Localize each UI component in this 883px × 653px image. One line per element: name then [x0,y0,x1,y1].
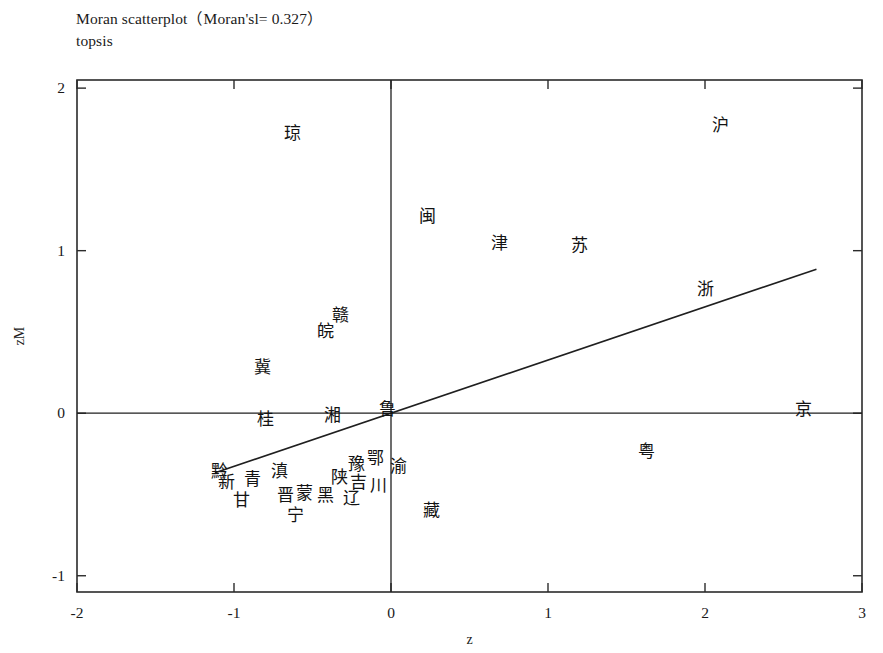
point-label: 川 [370,475,387,495]
point-label: 宁 [287,505,304,525]
y-tick-label: -1 [52,567,65,584]
point-label: 鲁 [379,399,396,419]
point-label: 沪 [712,115,729,135]
point-label: 晋 [277,485,294,505]
regression-line [215,269,816,473]
y-tick-label: 2 [57,79,65,96]
point-label: 冀 [254,357,271,377]
y-tick-label: 1 [57,242,65,259]
point-label: 津 [491,233,508,253]
y-axis-label: zM [12,326,27,345]
moran-fit-line [215,269,816,473]
point-label: 滇 [271,461,288,481]
x-tick-label: 3 [858,604,866,621]
tick-labels: -2-10123-1012 [52,79,866,621]
point-label: 黑 [317,485,334,505]
tick-marks [77,80,862,592]
x-tick-label: 1 [544,604,552,621]
plot-frame [77,80,862,592]
x-tick-label: -1 [228,604,241,621]
point-label: 新 [218,472,235,492]
point-label: 渝 [390,456,407,476]
point-label: 粤 [638,441,655,461]
moran-scatterplot: Moran scatterplot（Moran'sl= 0.327） topsi… [0,0,883,653]
point-label: 青 [244,469,261,489]
data-point-labels: 琼沪闽津苏浙赣皖冀桂湘鲁京粤鄂豫渝黔滇青陕吉新川蒙晋黑辽甘藏宁 [211,115,812,525]
point-label: 桂 [257,409,274,429]
point-label: 京 [795,399,812,419]
y-tick-label: 0 [57,404,65,421]
point-label: 蒙 [296,483,313,503]
point-label: 甘 [233,490,250,510]
point-label: 闽 [419,206,436,226]
point-label: 浙 [697,279,714,299]
point-label: 辽 [343,488,360,508]
x-tick-label: 2 [701,604,709,621]
reference-lines [77,80,862,592]
point-label: 皖 [317,321,334,341]
plot-canvas: -2-10123-1012 琼沪闽津苏浙赣皖冀桂湘鲁京粤鄂豫渝黔滇青陕吉新川蒙晋… [0,0,883,653]
x-tick-label: 0 [387,604,395,621]
point-label: 琼 [284,123,301,143]
plot-frame-rect [77,80,862,592]
x-tick-label: -2 [71,604,84,621]
point-label: 苏 [571,235,588,255]
point-label: 藏 [423,500,440,520]
x-axis-label: z [466,632,472,647]
axis-names: zzM [12,326,473,647]
point-label: 湘 [324,405,341,425]
point-label: 鄂 [367,448,384,468]
point-label: 赣 [332,305,349,325]
